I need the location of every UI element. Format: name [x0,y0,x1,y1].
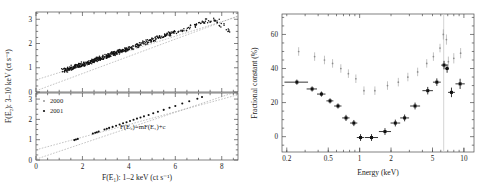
right-panel: 0.20.5125100204060Energy (keV)Fractional… [246,0,492,189]
data-point [320,93,323,96]
data-point [174,105,176,107]
data-point [151,38,153,40]
data-point [226,29,228,31]
data-point [136,118,138,120]
data-point [99,56,101,58]
data-point [180,30,182,32]
data-point [90,61,92,63]
data-point [70,67,72,69]
data-point [96,131,98,133]
data-point [407,76,409,78]
data-point [157,37,159,39]
data-point [112,126,114,128]
data-point [84,62,86,64]
data-point [208,20,210,22]
data-point [77,138,79,140]
data-point [145,39,147,41]
data-point [173,31,175,33]
data-point [417,71,419,73]
data-point [345,116,348,119]
data-point [108,127,110,129]
data-point [131,46,133,48]
data-point [132,48,134,50]
data-point [142,40,144,42]
data-point [228,28,230,30]
data-point [213,18,215,20]
data-point [152,112,154,114]
data-point [394,122,397,125]
data-point [426,89,429,92]
data-point [164,34,166,36]
data-point [138,45,140,47]
data-point [203,22,205,24]
data-point [92,133,94,135]
data-point [374,90,376,92]
data-point [143,43,145,45]
data-point [355,78,357,80]
data-point [403,116,406,119]
data-point [88,63,90,65]
data-point [140,43,142,45]
data-point [104,56,106,58]
data-point [459,82,462,85]
data-point [140,42,142,44]
top-plot-frame [36,12,238,92]
data-point [218,25,220,27]
data-point [101,56,103,58]
data-point [95,58,97,60]
data-point [435,81,438,84]
data-point [414,105,417,108]
data-point [102,54,104,56]
data-point [205,21,207,23]
legend-label-2000: 2000 [50,97,64,104]
data-point [81,63,83,65]
top-scatter-2000 [61,18,230,73]
data-point [98,131,100,133]
data-point [446,67,449,70]
data-point [116,53,118,55]
data-point [426,63,428,65]
x-tick-label: 8 [220,163,224,171]
data-point [206,18,208,20]
x-tick-label: 1 [358,155,362,163]
data-point [460,52,462,54]
x-tick-label: 10 [460,155,468,163]
data-point [70,65,72,67]
data-point [183,30,185,32]
data-point [207,22,209,24]
data-point [93,61,95,63]
y-tick-label: 1 [28,136,32,144]
data-point [298,51,300,53]
data-point [155,40,157,42]
data-point [125,48,127,50]
legend-marker-2000 [43,100,45,102]
data-point [147,39,149,41]
right-panel-svg: 0.20.5125100204060Energy (keV)Fractional… [246,0,492,189]
data-point [166,32,168,34]
data-point [448,61,450,63]
data-point [114,51,116,53]
data-point [181,103,183,105]
y-tick-label: 3 [28,96,32,104]
data-point [223,23,225,25]
data-point [201,96,203,98]
data-point [64,71,66,73]
y-tick-label: 3 [28,16,32,24]
data-point [108,55,110,57]
x-tick-label: 2 [81,163,85,171]
data-point [217,22,219,24]
data-point [111,53,113,55]
data-point [227,31,229,33]
data-point [383,130,386,133]
data-point [113,52,115,54]
y-tick-label: 2 [28,40,32,48]
data-point [123,49,125,51]
left-panel-svg: 024680123012320002001F(E₂)=mF(E₁)+cF(E₁)… [0,0,246,189]
data-point [387,85,389,87]
data-point [148,114,150,116]
data-point [139,117,141,119]
data-point [129,49,131,51]
data-point [97,56,99,58]
data-point [143,115,145,117]
data-point [397,81,399,83]
